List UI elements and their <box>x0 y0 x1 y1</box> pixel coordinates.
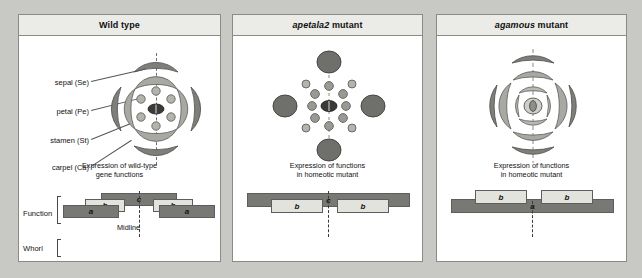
panel-agamous-title: agamous mutant <box>495 20 568 30</box>
function-midline <box>532 201 533 237</box>
apetala2-flower-diagram <box>269 45 389 167</box>
whorl-bracket <box>57 239 61 257</box>
function-row-label: Function <box>23 209 52 218</box>
sepal-label: sepal (Se) <box>25 78 89 87</box>
function-midline <box>328 191 329 237</box>
function-bar-b-left: b <box>475 190 527 204</box>
petal-label: petal (Pe) <box>25 107 89 116</box>
sepal-arcs <box>97 51 215 167</box>
panel-apetala2-header: apetala2 mutant <box>233 15 422 36</box>
panel-wild-type-header: Wild type <box>19 15 220 36</box>
function-bar-b-left: b <box>271 199 323 213</box>
carpel-center <box>148 104 164 114</box>
apetala2-caption: Expression of functions in homeotic muta… <box>233 161 422 179</box>
function-bracket <box>57 196 61 224</box>
panel-agamous-header: agamous mutant <box>437 15 626 36</box>
function-bar-b-right: b <box>541 190 593 204</box>
flower-center <box>524 98 542 114</box>
panel-apetala2-title: apetala2 mutant <box>292 20 362 30</box>
wild-type-caption: Expression of wild-type gene functions <box>19 161 220 179</box>
function-bars-apetala2: c b b <box>247 187 410 223</box>
panel-apetala2-mutant: apetala2 mutant <box>232 14 423 262</box>
stamen-label: stamen (St) <box>21 136 89 145</box>
whorl-row-label: Whorl <box>23 244 43 253</box>
wild-type-flower-diagram <box>97 51 215 167</box>
function-bars-wild-type: c b b a a <box>63 185 215 225</box>
panel-agamous-mutant: agamous mutant <box>436 14 627 262</box>
midline-label: Midline <box>117 223 140 232</box>
carpel-center <box>321 101 337 112</box>
function-bars-agamous: a b b <box>451 187 614 223</box>
homeotic-gene-figure: Wild type sepal (Se) petal (Pe) stamen (… <box>0 0 642 278</box>
panel-wild-type-title: Wild type <box>99 20 140 30</box>
agamous-flower-diagram <box>471 45 595 167</box>
agamous-caption: Expression of functions in homeotic muta… <box>437 161 626 179</box>
function-bar-a-left: a <box>63 205 119 218</box>
function-bar-a-right: a <box>159 205 215 218</box>
function-bar-b-right: b <box>337 199 389 213</box>
panel-wild-type: Wild type sepal (Se) petal (Pe) stamen (… <box>18 14 221 262</box>
